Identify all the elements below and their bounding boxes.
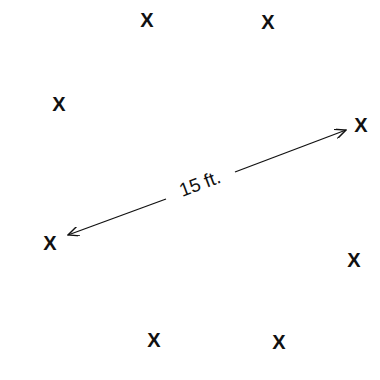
x-marker-bottom-right: X bbox=[272, 331, 286, 353]
x-marker-top-right: X bbox=[261, 11, 275, 33]
x-marker-bottom-left: X bbox=[147, 329, 161, 351]
x-marker-lower-right: X bbox=[347, 249, 361, 271]
dimension-arrow-left bbox=[68, 199, 166, 235]
dimension-line: 15 ft. bbox=[68, 130, 346, 235]
x-marker-right: X bbox=[354, 114, 368, 136]
x-marker-left: X bbox=[43, 232, 57, 254]
spacing-diagram: XXXXXXXX 15 ft. bbox=[0, 0, 380, 380]
x-marker-top-left: X bbox=[140, 9, 154, 31]
x-marker-upper-left: X bbox=[52, 93, 66, 115]
dimension-label: 15 ft. bbox=[176, 166, 223, 201]
diagram-canvas: XXXXXXXX 15 ft. bbox=[0, 0, 380, 380]
dimension-arrow-right bbox=[235, 130, 346, 172]
figure-caption-clipped bbox=[110, 373, 280, 380]
